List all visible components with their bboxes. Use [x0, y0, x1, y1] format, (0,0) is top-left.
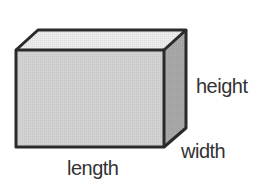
rectangular-prism-diagram: height width length: [0, 0, 258, 183]
width-label: width: [180, 140, 225, 162]
top-face-texture: [16, 30, 186, 50]
front-face-texture: [16, 50, 164, 147]
height-label: height: [196, 75, 248, 97]
length-label: length: [67, 157, 119, 179]
